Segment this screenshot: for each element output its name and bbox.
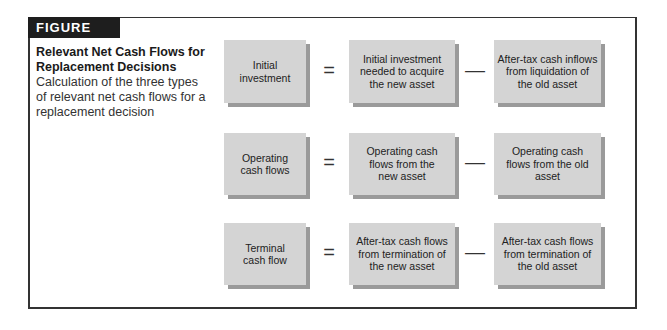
term-box-new-asset-termination: After-tax cash flows from termination of… [349,223,455,285]
minus-sign: — [460,151,490,174]
term-box-old-asset-operating: Operating cash flows from the old asset [494,133,601,195]
term-box-new-asset-investment: Initial investment needed to acquire the… [349,40,455,103]
box-text: Operating cash flows from the new asset [360,145,444,183]
box-text: After-tax cash flows from termination of… [353,235,451,273]
minus-sign: — [460,59,490,82]
term-box-old-asset-liquidation: After-tax cash inflows from liquidation … [494,40,601,103]
figure-description: Calculation of the three types of releva… [36,75,206,120]
figure-label: FIGURE 11.2 [28,17,120,38]
box-text: Operating cash flows from the old asset [506,145,590,183]
result-box-operating-cash-flows: Operating cash flows [224,133,306,195]
figure-title: Relevant Net Cash Flows for Replacement … [36,45,206,75]
box-text: After-tax cash flows from termination of… [499,235,597,273]
equals-sign: = [314,59,344,82]
box-text: After-tax cash inflows from liquidation … [498,53,598,91]
term-box-new-asset-operating: Operating cash flows from the new asset [349,133,455,195]
box-text: Terminal cash flow [235,242,295,267]
box-text: Operating cash flows [235,152,295,177]
box-text: Initial investment [235,59,295,84]
minus-sign: — [460,241,490,264]
figure-caption: Relevant Net Cash Flows for Replacement … [36,45,206,120]
box-text: Initial investment needed to acquire the… [356,53,448,91]
term-box-old-asset-termination: After-tax cash flows from termination of… [494,223,601,285]
result-box-terminal-cash-flow: Terminal cash flow [224,223,306,285]
equals-sign: = [314,151,344,174]
result-box-initial-investment: Initial investment [224,40,306,103]
equals-sign: = [314,241,344,264]
